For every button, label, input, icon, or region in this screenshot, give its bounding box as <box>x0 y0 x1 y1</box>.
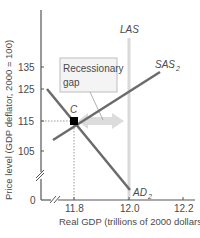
sas2-label: SAS2 <box>155 59 180 72</box>
y-tick-105: 105 <box>18 146 35 157</box>
x-axis <box>41 196 195 203</box>
y-axis-title: Price level (GDP deflator, 2000 = 100) <box>3 40 14 200</box>
chart: LAS Recessionary gap AD2 SAS2 C 135 125 <box>0 0 200 238</box>
y-tick-0: 0 <box>30 195 36 206</box>
ad2-label: AD2 <box>132 187 152 200</box>
point-c-label: C <box>70 104 78 115</box>
point-c <box>70 117 78 125</box>
y-tick-125: 125 <box>18 84 35 95</box>
gap-label-line1: Recessionary <box>63 63 124 74</box>
y-tick-115: 115 <box>18 116 34 127</box>
y-tick-135: 135 <box>18 62 35 73</box>
ad2-curve <box>47 89 130 190</box>
y-axis <box>36 10 44 200</box>
x-tick-11-8: 11.8 <box>65 203 84 214</box>
las-label: LAS <box>120 24 139 35</box>
x-tick-12-2: 12.2 <box>174 203 194 214</box>
x-axis-title: Real GDP (trillions of 2000 dollars) <box>59 216 200 227</box>
gap-label-line2: gap <box>63 77 80 88</box>
x-tick-12-0: 12.0 <box>120 203 140 214</box>
